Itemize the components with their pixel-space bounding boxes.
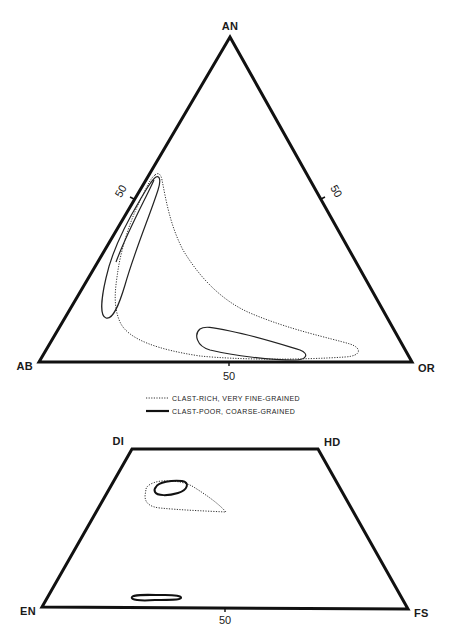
legend-label-clast-poor: CLAST-POOR, COARSE-GRAINED [172, 408, 295, 415]
apex-label-or: OR [418, 362, 435, 374]
clast-poor-field-ternary-base [197, 327, 306, 360]
apex-label-an: AN [222, 20, 239, 32]
pyroxene-quadrilateral: DI HD EN FS 50 [20, 435, 429, 626]
corner-label-di: DI [112, 435, 124, 447]
bottom-tick-label: 50 [223, 370, 235, 382]
right-tick-label: 50 [328, 183, 345, 200]
legend-label-clast-rich: CLAST-RICH, VERY FINE-GRAINED [172, 395, 300, 402]
clast-poor-field-quad-loop [155, 481, 187, 495]
quad-bottom-tick-label: 50 [219, 614, 231, 626]
corner-label-fs: FS [414, 607, 429, 619]
apex-label-ab: AB [17, 360, 34, 372]
ternary-frame [39, 37, 412, 362]
corner-label-en: EN [20, 605, 36, 617]
left-tick-label: 50 [112, 183, 129, 200]
quadrilateral-frame [42, 449, 408, 609]
feldspar-ternary: AN AB OR 50 50 50 [17, 20, 436, 382]
left-edge-tick [130, 197, 134, 199]
right-edge-tick [321, 197, 325, 199]
clast-poor-field-quad-base [132, 595, 181, 601]
petrology-diagram: AN AB OR 50 50 50 CLAST-RICH, VERY FINE-… [0, 0, 457, 640]
legend: CLAST-RICH, VERY FINE-GRAINED CLAST-POOR… [146, 395, 300, 415]
corner-label-hd: HD [324, 436, 341, 448]
